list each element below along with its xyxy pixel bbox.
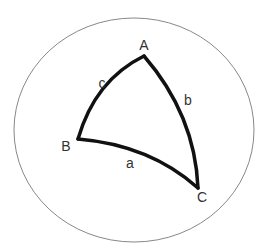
spherical-triangle-diagram: [0, 0, 264, 250]
sphere-outline: [14, 18, 254, 242]
vertex-label-a: A: [139, 38, 148, 52]
side-a-arc: [78, 139, 198, 188]
side-label-c: c: [99, 76, 106, 90]
side-label-a: a: [126, 156, 134, 170]
side-label-b: b: [184, 93, 192, 107]
vertex-label-b: B: [61, 139, 70, 153]
vertex-label-c: C: [197, 190, 207, 204]
side-c-arc: [78, 56, 144, 139]
